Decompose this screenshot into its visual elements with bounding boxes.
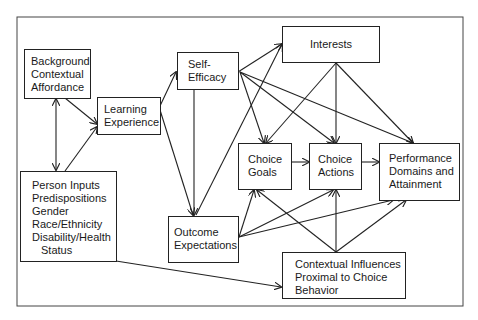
node-person-line: Race/Ethnicity bbox=[32, 218, 110, 231]
node-contextual-line: Contextual Influences bbox=[295, 258, 399, 271]
node-interests-line: Interests bbox=[310, 38, 352, 51]
node-choice-goals: Choice Goals bbox=[238, 143, 292, 190]
node-performance-line: Attainment bbox=[389, 178, 453, 191]
node-performance: Performance Domains and Attainment bbox=[379, 143, 460, 201]
node-learning-line: Experience bbox=[104, 116, 154, 129]
node-person-inputs: Person Inputs Predispositions Gender Rac… bbox=[20, 171, 117, 262]
node-background-line: Background bbox=[31, 55, 84, 68]
node-learning-experience: Learning Experience bbox=[97, 97, 161, 135]
node-person-line: Predispositions bbox=[32, 192, 110, 205]
edge-person-learning bbox=[65, 127, 97, 171]
edge-interests-goals bbox=[266, 63, 336, 143]
edge-interests-performance bbox=[336, 63, 413, 143]
node-person-line: Status bbox=[32, 244, 110, 257]
node-person-line: Gender bbox=[32, 205, 110, 218]
node-person-line: Person Inputs bbox=[32, 179, 110, 192]
node-background: Background Contextual Affordance bbox=[24, 49, 91, 99]
node-selfefficacy-line: Efficacy bbox=[188, 71, 232, 84]
node-outcome-expectations: Outcome Expectations bbox=[168, 216, 239, 263]
edge-outcome-actions bbox=[239, 190, 333, 237]
node-selfefficacy-line: Self- bbox=[188, 58, 232, 71]
node-actions-line: Actions bbox=[318, 166, 355, 179]
node-outcome-line: Outcome bbox=[174, 226, 232, 239]
node-choice-actions: Choice Actions bbox=[309, 143, 362, 190]
node-background-line: Affordance bbox=[31, 81, 84, 94]
node-outcome-line: Expectations bbox=[174, 239, 232, 252]
edge-background-learning bbox=[65, 98, 97, 124]
node-goals-line: Goals bbox=[248, 166, 285, 179]
figure-caption-cutoff bbox=[0, 311, 478, 320]
edge-outcome-performance bbox=[239, 200, 393, 237]
node-actions-line: Choice bbox=[318, 153, 355, 166]
node-performance-line: Domains and bbox=[389, 165, 453, 178]
edge-contextual-goals bbox=[257, 190, 336, 252]
node-performance-line: Performance bbox=[389, 152, 453, 165]
node-contextual-line: Behavior bbox=[295, 284, 399, 297]
edge-selfefficacy-performance bbox=[240, 72, 413, 143]
edge-selfefficacy-actions bbox=[240, 72, 334, 143]
edge-selfefficacy-goals bbox=[240, 72, 264, 143]
node-interests: Interests bbox=[282, 26, 380, 63]
node-background-line: Contextual bbox=[31, 68, 84, 81]
edge-learning-selfefficacy bbox=[160, 72, 176, 106]
node-goals-line: Choice bbox=[248, 153, 285, 166]
edge-person-contextual bbox=[116, 261, 281, 287]
node-learning-line: Learning bbox=[104, 103, 154, 116]
node-contextual-influences: Contextual Influences Proximal to Choice… bbox=[282, 252, 406, 299]
edge-learning-outcome bbox=[160, 110, 193, 215]
node-self-efficacy: Self- Efficacy bbox=[177, 52, 239, 90]
node-contextual-line: Proximal to Choice bbox=[295, 271, 399, 284]
edge-outcome-goals bbox=[239, 190, 254, 237]
node-person-line: Disability/Health bbox=[32, 231, 110, 244]
edge-contextual-performance bbox=[336, 200, 406, 252]
